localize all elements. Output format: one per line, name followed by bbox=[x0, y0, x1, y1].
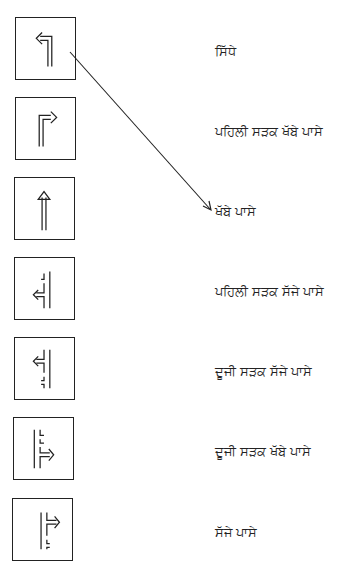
turn-right-arrow-icon bbox=[16, 98, 75, 159]
sign-box-2 bbox=[15, 97, 76, 160]
sign-label-2: ਪਹਿਲੀ ਸੜਕ ਖੱਬੇ ਪਾਸੇ bbox=[215, 124, 323, 140]
sign-box-4 bbox=[14, 257, 75, 320]
second-left-road-arrow-icon bbox=[15, 338, 74, 399]
sign-box-7 bbox=[12, 498, 73, 561]
sign-label-1: ਸਿੱਧੇ bbox=[215, 44, 236, 60]
sign-box-5 bbox=[14, 337, 75, 400]
straight-arrow-icon bbox=[15, 178, 74, 239]
sign-label-7: ਸੱਜੇ ਪਾਸੇ bbox=[215, 525, 257, 541]
sign-box-6 bbox=[13, 417, 74, 480]
sign-label-3: ਖੱਬੇ ਪਾਸੇ bbox=[215, 204, 256, 220]
sign-label-6: ਦੂਜੀ ਸੜਕ ਖੱਬੇ ਪਾਸੇ bbox=[215, 444, 311, 460]
sign-label-5: ਦੂਜੀ ਸੜਕ ਸੱਜੇ ਪਾਸੇ bbox=[215, 364, 312, 380]
second-right-road-arrow-icon bbox=[14, 418, 73, 479]
turn-left-arrow-icon bbox=[16, 18, 75, 79]
sign-box-1 bbox=[15, 17, 76, 80]
first-right-road-arrow-icon bbox=[13, 499, 72, 560]
sign-box-3 bbox=[14, 177, 75, 240]
cut-off-header-text bbox=[140, 0, 310, 2]
first-left-road-arrow-icon bbox=[15, 258, 74, 319]
sign-label-4: ਪਹਿਲੀ ਸੜਕ ਸੱਜੇ ਪਾਸੇ bbox=[215, 284, 324, 300]
